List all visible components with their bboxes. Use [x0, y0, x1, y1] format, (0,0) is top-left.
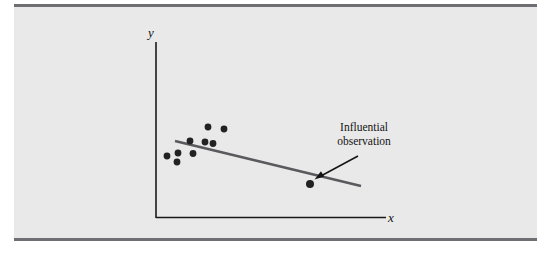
y-axis-label: y [148, 26, 154, 39]
annotation-line-2: observation [326, 134, 402, 148]
annotation-arrow-icon [315, 156, 359, 180]
data-point [175, 150, 182, 157]
data-point [210, 140, 217, 147]
x-axis-label: x [388, 211, 394, 224]
data-point [190, 150, 197, 157]
data-point [221, 126, 228, 133]
data-point [187, 138, 194, 145]
annotation-line-1: Influential [326, 120, 402, 134]
influential-observation-annotation: Influential observation [326, 120, 402, 148]
data-point [174, 159, 181, 166]
data-point [205, 124, 212, 131]
data-points [164, 124, 228, 166]
influential-observation-point [306, 180, 314, 188]
data-point [202, 139, 209, 146]
figure-page: y x Influential observation [0, 0, 544, 254]
scatter-plot [0, 0, 544, 254]
data-point [164, 153, 171, 160]
